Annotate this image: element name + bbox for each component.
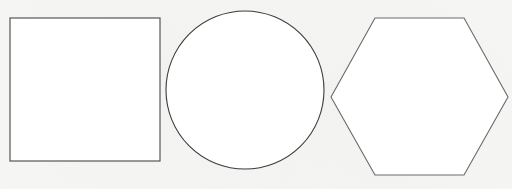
square-shape <box>10 18 160 161</box>
shapes-svg <box>0 0 512 189</box>
shapes-canvas: Square Circle Hexagon <box>0 0 512 189</box>
hexagon-shape <box>331 18 508 175</box>
circle-shape <box>166 11 324 169</box>
